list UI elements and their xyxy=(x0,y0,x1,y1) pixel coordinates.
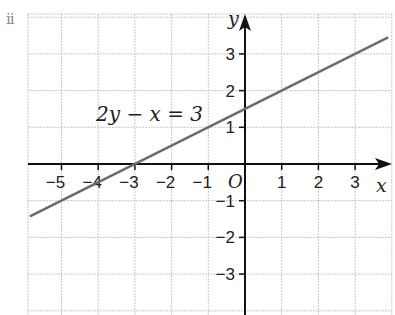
x-tick-label: −1 xyxy=(193,173,212,192)
y-tick-label: −1 xyxy=(216,192,235,211)
x-tick-label: −2 xyxy=(156,173,175,192)
y-tick-label: 1 xyxy=(226,118,235,137)
x-tick-label: 2 xyxy=(314,173,323,192)
origin-label: O xyxy=(228,171,243,192)
axis-labels: yxO2y − x = 3 xyxy=(95,7,387,196)
x-tick-label: −3 xyxy=(119,173,138,192)
x-tick-label: 1 xyxy=(277,173,286,192)
graph: −5−4−3−2−1123−3−2−1123 yxO2y − x = 3 xyxy=(0,0,395,315)
y-tick-label: 2 xyxy=(226,82,235,101)
y-tick-label: −3 xyxy=(216,265,235,284)
x-axis-label: x xyxy=(376,174,387,196)
equation-label: 2y − x = 3 xyxy=(95,102,203,126)
y-tick-label: −2 xyxy=(216,228,235,247)
x-tick-label: 3 xyxy=(350,173,359,192)
y-axis-label: y xyxy=(227,7,239,29)
axes xyxy=(28,14,392,315)
y-tick-label: 3 xyxy=(226,45,235,64)
x-tick-label: −5 xyxy=(46,173,65,192)
